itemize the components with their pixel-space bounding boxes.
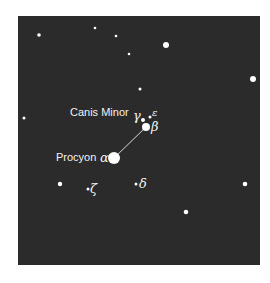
star-beta xyxy=(142,123,150,131)
constellation-line xyxy=(114,127,146,158)
star-bg8 xyxy=(23,117,26,120)
gamma-label: γ xyxy=(133,109,141,122)
delta-label: δ xyxy=(139,177,147,190)
star-alpha xyxy=(108,152,120,164)
alpha-label: α xyxy=(100,151,109,164)
star-gamma xyxy=(141,118,145,122)
star-delta xyxy=(135,183,138,186)
star-bg2 xyxy=(94,27,97,30)
star-bg10 xyxy=(243,182,248,187)
star-bg4 xyxy=(128,53,131,56)
star-bg6 xyxy=(139,88,142,91)
star-bg1 xyxy=(37,33,41,37)
star-bg9 xyxy=(58,182,62,186)
star-bg3 xyxy=(115,35,118,38)
procyon-label: Procyon xyxy=(56,152,96,163)
beta-label: β xyxy=(151,120,159,133)
constellation-label: Canis Minor xyxy=(70,107,129,118)
star-bg11 xyxy=(184,210,189,215)
epsilon-label: ε xyxy=(152,108,157,118)
star-chart xyxy=(0,0,270,283)
star-bg7 xyxy=(250,76,256,82)
zeta-label: ζ xyxy=(90,182,97,195)
star-bg5 xyxy=(163,42,169,48)
